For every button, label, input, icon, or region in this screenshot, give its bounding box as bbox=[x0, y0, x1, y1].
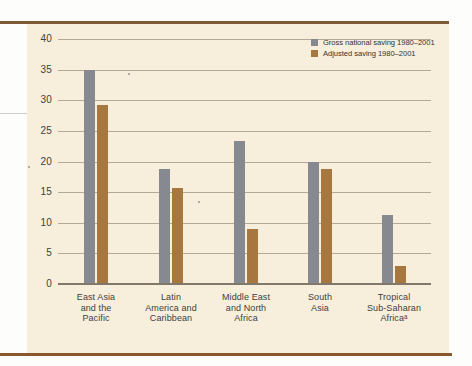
scan-speck bbox=[128, 73, 130, 75]
legend-row-adjusted-saving: Adjusted saving 1980–2001 bbox=[311, 49, 435, 58]
bar-gross-3 bbox=[308, 162, 319, 285]
bar-adjusted-2 bbox=[247, 229, 258, 284]
y-axis-tick-label-5: 5 bbox=[26, 248, 52, 258]
bar-adjusted-0 bbox=[97, 105, 108, 284]
y-axis-tick-label-40: 40 bbox=[26, 34, 52, 44]
category-label-line: Sub-Saharan bbox=[349, 303, 439, 314]
scan-speck bbox=[198, 201, 200, 203]
legend-label: Adjusted saving 1980–2001 bbox=[323, 49, 415, 58]
x-axis-baseline bbox=[58, 283, 431, 285]
y-axis-tick-label-30: 30 bbox=[26, 95, 52, 105]
category-label-line: Africaᵃ bbox=[349, 313, 439, 324]
gridline-y-25 bbox=[58, 131, 431, 132]
y-axis-tick-label-20: 20 bbox=[26, 157, 52, 167]
y-axis-tick-label-25: 25 bbox=[26, 126, 52, 136]
bar-adjusted-3 bbox=[321, 169, 332, 284]
scanned-chart-page: 0510152025303540East Asiaand thePacificL… bbox=[0, 0, 472, 366]
category-label-line: Africa bbox=[201, 313, 291, 324]
category-label-line: Tropical bbox=[349, 292, 439, 303]
legend-swatch-gray-icon bbox=[311, 39, 318, 46]
scan-speck bbox=[28, 166, 30, 168]
bar-gross-2 bbox=[234, 141, 245, 284]
x-axis-category-label-4: TropicalSub-SaharanAfricaᵃ bbox=[349, 292, 439, 324]
gridline-y-35 bbox=[58, 70, 431, 71]
gridline-y-30 bbox=[58, 100, 431, 101]
bar-gross-0 bbox=[84, 70, 95, 284]
y-axis-tick-label-10: 10 bbox=[26, 218, 52, 228]
bar-adjusted-1 bbox=[172, 188, 183, 284]
y-axis-tick-label-35: 35 bbox=[26, 65, 52, 75]
legend-swatch-brown-icon bbox=[311, 50, 318, 57]
y-axis-tick-label-0: 0 bbox=[26, 279, 52, 289]
chart-legend: Gross national saving 1980–2001 Adjusted… bbox=[311, 38, 435, 58]
bar-adjusted-4 bbox=[395, 266, 406, 284]
bar-gross-4 bbox=[382, 215, 393, 284]
legend-row-gross-national-saving: Gross national saving 1980–2001 bbox=[311, 38, 435, 47]
legend-label: Gross national saving 1980–2001 bbox=[323, 38, 435, 47]
y-axis-tick-label-15: 15 bbox=[26, 187, 52, 197]
bar-gross-1 bbox=[159, 169, 170, 284]
